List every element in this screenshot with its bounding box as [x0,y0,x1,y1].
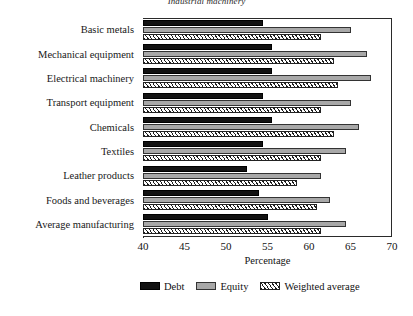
bar-group [143,164,392,188]
y-axis-label: Leather products [0,170,138,181]
legend-item-weighted-average: Weighted average [260,281,359,292]
bar-debt [143,117,272,123]
plot-bars-layer [143,18,392,237]
legend-swatch-equity [196,282,216,290]
bar-weighted-average [143,82,338,88]
y-axis-label: Foods and beverages [0,195,138,206]
legend-item-debt: Debt [140,281,184,292]
bar-weighted-average [143,204,317,210]
y-axis-label: Electrical machinery [0,73,138,84]
bar-weighted-average [143,180,297,186]
legend-swatch-weighted-average [260,282,280,290]
bar-group [143,188,392,212]
bar-equity [143,148,346,154]
bar-group [143,18,392,42]
legend-label-debt: Debt [164,281,184,292]
y-axis-label: Chemicals [0,122,138,133]
bar-equity [143,124,359,130]
legend-label-weighted-average: Weighted average [284,281,359,292]
x-axis-tick-label: 70 [387,240,398,252]
bar-group [143,42,392,66]
bar-debt [143,20,263,26]
bar-equity [143,221,346,227]
y-axis-label: Mechanical equipment [0,49,138,60]
bar-chart: Industrial machinery Basic metalsMechani… [0,0,413,316]
y-axis-label: Basic metals [0,24,138,35]
x-axis-ticks: 40455055606570 [143,240,392,254]
bar-debt [143,68,272,74]
bar-debt [143,214,268,220]
legend-item-equity: Equity [196,281,248,292]
chart-legend: Debt Equity Weighted average [140,278,413,294]
bar-equity [143,173,321,179]
bar-weighted-average [143,58,334,64]
legend-label-equity: Equity [220,281,248,292]
bar-weighted-average [143,155,321,161]
x-axis-tick-label: 55 [262,240,273,252]
x-axis-tick-label: 50 [221,240,232,252]
chart-title: Industrial machinery [0,0,413,6]
bar-debt [143,190,259,196]
bar-equity [143,51,367,57]
x-axis-tick-label: 65 [345,240,356,252]
bar-debt [143,44,272,50]
legend-swatch-debt [140,282,160,290]
x-axis-title: Percentage [143,255,392,266]
bar-group [143,115,392,139]
bar-equity [143,75,371,81]
bar-group [143,213,392,237]
bar-weighted-average [143,34,321,40]
bar-debt [143,141,263,147]
y-axis-label: Textiles [0,146,138,157]
bar-debt [143,166,247,172]
y-axis-label: Average manufacturing [0,219,138,230]
x-axis-tick-label: 60 [304,240,315,252]
bar-equity [143,197,330,203]
y-axis-label: Transport equipment [0,97,138,108]
bar-weighted-average [143,131,334,137]
bar-group [143,67,392,91]
bar-weighted-average [143,228,321,234]
x-axis-tick-label: 45 [179,240,190,252]
bar-group [143,91,392,115]
y-axis-labels: Basic metalsMechanical equipmentElectric… [0,18,138,237]
bar-equity [143,100,351,106]
bar-debt [143,93,263,99]
bar-group [143,140,392,164]
bar-equity [143,27,351,33]
x-axis-tick-label: 40 [138,240,149,252]
bar-weighted-average [143,107,321,113]
